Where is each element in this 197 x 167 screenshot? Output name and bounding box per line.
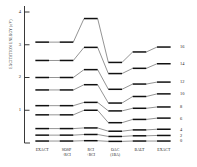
series-label: 8 <box>180 104 194 109</box>
level-connector <box>146 118 157 119</box>
level-connector <box>98 19 109 63</box>
plot-area <box>0 0 197 167</box>
level-connector <box>98 47 109 73</box>
x-tick-label-line1: EXACT <box>144 148 184 153</box>
series-label: 2 <box>180 133 194 138</box>
series-line <box>35 70 170 90</box>
level-connector <box>146 107 157 108</box>
level-connector <box>73 134 84 135</box>
x-tick-label: EXACT <box>144 148 184 153</box>
series-line <box>35 47 170 73</box>
series-label: 12 <box>180 79 194 84</box>
level-connector <box>98 141 109 142</box>
y-tick-label: 2 <box>9 74 21 79</box>
series-line <box>35 134 170 136</box>
level-connector <box>146 47 157 52</box>
series-label: 0 <box>180 138 194 143</box>
level-connector <box>98 70 109 90</box>
level-connector <box>122 68 133 73</box>
level-connector <box>122 96 133 103</box>
level-connector <box>146 129 157 130</box>
x-tick-label-line2: (1BA) <box>95 153 135 158</box>
series-label: 14 <box>180 61 194 66</box>
level-connector <box>73 102 84 105</box>
level-connector <box>73 128 84 129</box>
level-connector <box>98 85 109 103</box>
level-connector <box>98 134 109 136</box>
level-connector <box>73 19 84 43</box>
level-connector <box>73 85 84 90</box>
level-connector <box>122 84 133 89</box>
level-connector <box>146 64 157 69</box>
series-line <box>35 110 170 122</box>
level-connector <box>122 119 133 122</box>
level-connector <box>122 108 133 111</box>
level-connector <box>98 110 109 122</box>
series-label: 6 <box>180 116 194 121</box>
series-label: 10 <box>180 91 194 96</box>
level-connector <box>98 102 109 111</box>
energy-level-correlation-chart: EXCITATION ENERGY (eV) 4321 161412108642… <box>0 0 197 167</box>
series-line <box>35 141 170 142</box>
level-connector <box>146 82 157 84</box>
level-connector <box>73 110 84 115</box>
series-line <box>35 19 170 63</box>
y-tick-label: 1 <box>9 107 21 112</box>
series-label: 4 <box>180 127 194 132</box>
y-tick-label: 4 <box>9 9 21 14</box>
y-axis-ticks <box>25 12 30 110</box>
series-lines <box>35 19 170 142</box>
level-connector <box>73 70 84 78</box>
y-tick-label: 3 <box>9 42 21 47</box>
axis-lines <box>25 6 31 143</box>
level-connector <box>73 47 84 60</box>
level-connector <box>98 128 109 131</box>
level-connector <box>122 136 133 137</box>
series-line <box>35 128 170 131</box>
series-label: 16 <box>180 44 194 49</box>
level-connector <box>146 94 157 97</box>
series-line <box>35 85 170 103</box>
series-line <box>35 102 170 111</box>
level-connector <box>122 130 133 131</box>
level-connector <box>122 52 133 62</box>
